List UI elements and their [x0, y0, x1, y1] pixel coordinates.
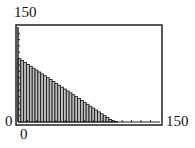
bar: [92, 108, 95, 122]
bar: [55, 83, 58, 122]
bar: [66, 91, 69, 122]
bar: [86, 104, 89, 122]
bar: [69, 93, 72, 122]
bar: [75, 97, 78, 122]
bar: [78, 99, 81, 122]
bar: [58, 85, 61, 122]
bar: [95, 110, 98, 122]
bar: [44, 76, 47, 122]
bar: [38, 72, 41, 122]
bar: [27, 64, 30, 122]
bar: [32, 68, 35, 122]
bar: [29, 66, 32, 122]
bar: [46, 78, 49, 122]
bar: [35, 70, 38, 122]
bar: [24, 62, 27, 122]
bar: [52, 81, 55, 122]
bar: [83, 102, 86, 122]
bar: [41, 74, 44, 122]
bar: [89, 106, 92, 122]
bar-series: [18, 59, 117, 122]
bar: [72, 95, 75, 122]
bar: [98, 112, 101, 122]
chart-plot-area: [0, 0, 195, 148]
bar: [106, 118, 109, 122]
bar: [80, 100, 83, 122]
bar: [49, 80, 52, 122]
bar: [21, 61, 24, 122]
bar: [63, 89, 66, 122]
bar: [61, 87, 64, 122]
